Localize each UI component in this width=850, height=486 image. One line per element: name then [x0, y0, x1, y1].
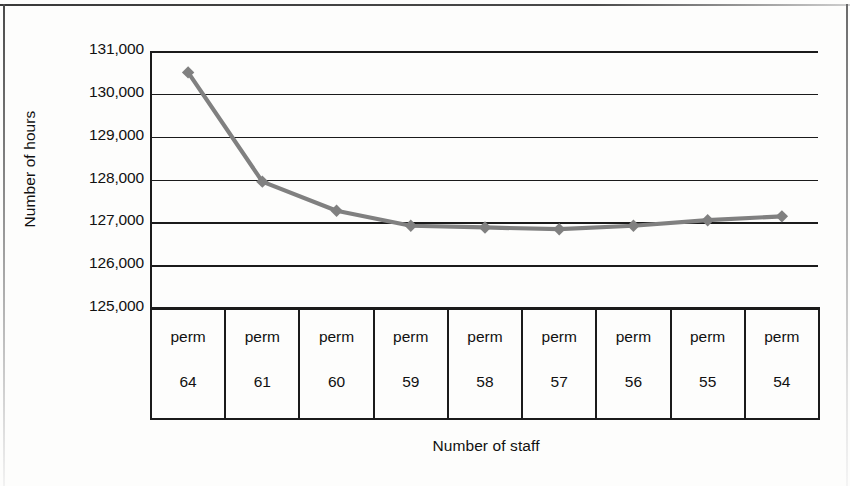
data-point-marker [701, 214, 713, 226]
category-label-count: 59 [402, 373, 419, 391]
chart-figure: Number of hours Number of staff 131,0001… [0, 0, 850, 486]
category-cell: perm54 [746, 308, 818, 418]
data-point-marker [627, 220, 639, 232]
category-label-count: 60 [328, 373, 345, 391]
page-border-left [3, 4, 5, 486]
data-point-marker [330, 205, 342, 217]
y-axis-tick-label: 130,000 [22, 83, 144, 101]
category-label-count: 57 [551, 373, 568, 391]
category-label-count: 64 [179, 373, 196, 391]
category-label-type: perm [542, 328, 577, 346]
category-label-count: 55 [699, 373, 716, 391]
category-label-type: perm [616, 328, 651, 346]
category-label-type: perm [393, 328, 428, 346]
y-axis-tick-label: 127,000 [22, 211, 144, 229]
category-label-type: perm [690, 328, 725, 346]
category-label-count: 54 [773, 373, 790, 391]
page-border-top [0, 4, 850, 6]
category-label-type: perm [170, 328, 205, 346]
category-table: perm64perm61perm60perm59perm58perm57perm… [150, 308, 820, 420]
category-cell: perm59 [375, 308, 449, 418]
category-cell: perm61 [226, 308, 300, 418]
y-axis-tick-label: 129,000 [22, 126, 144, 144]
category-cell: perm55 [672, 308, 746, 418]
data-point-marker [553, 223, 565, 235]
data-point-marker [776, 210, 788, 222]
page-border-right [846, 4, 848, 486]
category-label-count: 58 [476, 373, 493, 391]
category-cell: perm64 [152, 308, 226, 418]
y-axis-title: Number of hours [21, 59, 39, 279]
category-label-type: perm [319, 328, 354, 346]
y-axis-tick-label: 128,000 [22, 169, 144, 187]
category-label-type: perm [245, 328, 280, 346]
category-cell: perm57 [523, 308, 597, 418]
category-cell: perm58 [449, 308, 523, 418]
category-label-count: 56 [625, 373, 642, 391]
category-label-type: perm [467, 328, 502, 346]
y-axis-tick-label: 125,000 [22, 297, 144, 315]
x-axis-title: Number of staff [150, 437, 822, 455]
data-series-layer [150, 40, 822, 320]
y-axis-tick-label: 126,000 [22, 254, 144, 272]
series-line [188, 72, 782, 229]
category-cell: perm60 [300, 308, 374, 418]
data-point-marker [405, 220, 417, 232]
category-cell: perm56 [597, 308, 671, 418]
category-label-count: 61 [254, 373, 271, 391]
data-point-marker [479, 221, 491, 233]
category-label-type: perm [764, 328, 799, 346]
y-axis-tick-label: 131,000 [22, 40, 144, 58]
